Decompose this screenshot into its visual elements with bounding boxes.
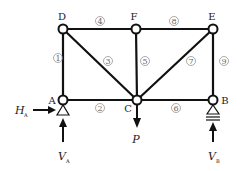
member-label-3: 3 [105, 57, 110, 66]
reaction-vb-subscript: B [216, 158, 220, 164]
support-a-pin [57, 105, 69, 115]
truss-diagram: 1 2 3 4 5 6 7 8 9 D F E A [0, 0, 243, 171]
node-a [59, 96, 68, 105]
node-label-b: B [221, 95, 228, 106]
member-label-4: 4 [97, 17, 102, 26]
load-p-arrow: P [131, 104, 141, 146]
node-label-a: A [47, 95, 56, 106]
support-b-roller [206, 105, 220, 120]
reaction-vb-arrow: V B [208, 122, 220, 164]
member-5 [136, 29, 137, 100]
member-label-6: 6 [173, 104, 178, 113]
reaction-va-subscript: A [65, 158, 70, 164]
node-label-c: C [124, 103, 132, 114]
node-label-f: F [131, 11, 138, 22]
member-label-7: 7 [188, 57, 193, 66]
node-label-e: E [208, 11, 215, 22]
node-label-d: D [58, 11, 66, 22]
member-7 [137, 29, 213, 100]
load-p-label: P [131, 133, 140, 146]
member-3 [63, 29, 137, 100]
reaction-ha-subscript: A [23, 112, 28, 118]
node-f [132, 25, 141, 34]
node-b [209, 96, 218, 105]
member-label-8: 8 [171, 17, 176, 26]
node-e [209, 25, 218, 34]
member-label-5: 5 [142, 57, 147, 66]
node-d [59, 25, 68, 34]
node-c [133, 96, 142, 105]
member-label-9: 9 [221, 57, 226, 66]
reaction-va-arrow: V A [58, 118, 70, 164]
reaction-ha-arrow: H A [14, 104, 56, 118]
member-label-1: 1 [55, 54, 60, 63]
member-label-2: 2 [97, 104, 102, 113]
